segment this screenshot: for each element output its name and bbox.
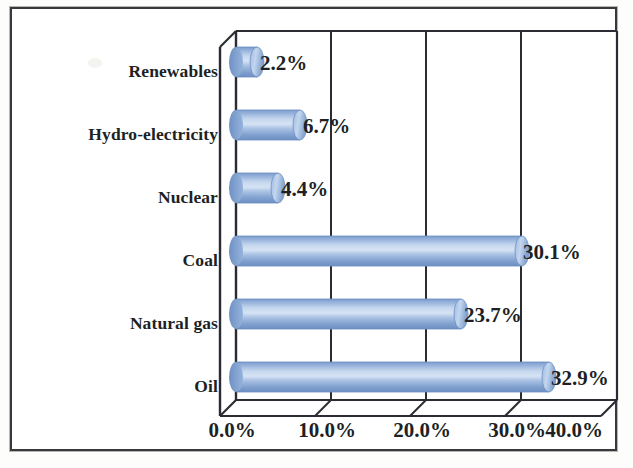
tick-label-0: 0.0%	[208, 418, 255, 443]
tick-label-40: 40.0%	[545, 418, 603, 443]
tick-label-20: 20.0%	[393, 418, 451, 443]
category-axis-labels: Renewables Hydro-electricity Nuclear Coa…	[8, 24, 218, 400]
category-label-nuclear: Nuclear	[8, 187, 218, 208]
tick-label-30: 30.0%	[488, 418, 546, 443]
bar-coal	[229, 236, 529, 266]
bar-nuclear	[229, 173, 285, 203]
chart-screenshot: Renewables Hydro-electricity Nuclear Coa…	[0, 0, 633, 468]
data-label-hydro-electricity: 6.7%	[303, 114, 350, 139]
category-label-coal: Coal	[8, 250, 218, 271]
category-label-oil: Oil	[8, 376, 218, 397]
bar-renewables	[229, 47, 264, 77]
bar-natural-gas	[229, 299, 468, 329]
category-label-hydro-electricity: Hydro-electricity	[8, 124, 218, 145]
data-label-renewables: 2.2%	[260, 51, 307, 76]
plot-3d-frame	[220, 31, 617, 416]
bar-oil	[229, 362, 556, 392]
data-label-nuclear: 4.4%	[281, 177, 328, 202]
value-axis-labels: 0.0% 10.0% 20.0% 30.0% 40.0%	[0, 412, 633, 446]
tick-label-10: 10.0%	[298, 418, 356, 443]
data-label-oil: 32.9%	[551, 366, 609, 391]
data-label-coal: 30.1%	[523, 240, 581, 265]
depth-edge-top-left	[220, 31, 236, 47]
data-label-natural-gas: 23.7%	[464, 303, 522, 328]
bar-hydro-electricity	[229, 110, 307, 140]
category-label-renewables: Renewables	[8, 61, 218, 82]
category-label-natural-gas: Natural gas	[8, 313, 218, 334]
